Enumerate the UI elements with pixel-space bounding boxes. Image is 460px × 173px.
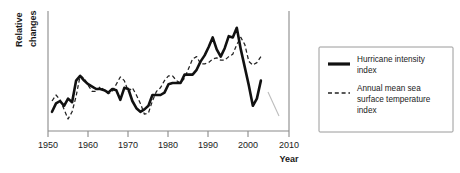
chart-legend: Hurricane intensity index Annual mean se… [319,47,453,132]
y-axis-label-line-1: Relative [14,12,24,47]
legend-label-sst-line-3: index [357,106,377,115]
x-tick-label-2010: 2010 [279,140,299,150]
x-tick-label-1990: 1990 [198,140,218,150]
x-tick-label-1970: 1970 [118,140,138,150]
legend-label-sst-line-1: Annual mean sea [357,84,421,93]
legend-label-sst-line-2: surface temperature [357,95,431,104]
legend-label-hurricane-line-2: index [357,66,377,75]
x-tick-label-2000: 2000 [238,140,258,150]
y-axis-label-line-2: changes [28,10,38,47]
x-axis-label: Year [279,154,299,164]
x-tick-label-1980: 1980 [158,140,178,150]
legend-label-hurricane-line-1: Hurricane intensity [357,55,426,64]
hurricane-intensity-sst-chart: Relative changes 1950 1960 1970 1980 199… [0,0,460,173]
x-tick-label-1960: 1960 [78,140,98,150]
x-tick-label-1950: 1950 [38,140,58,150]
